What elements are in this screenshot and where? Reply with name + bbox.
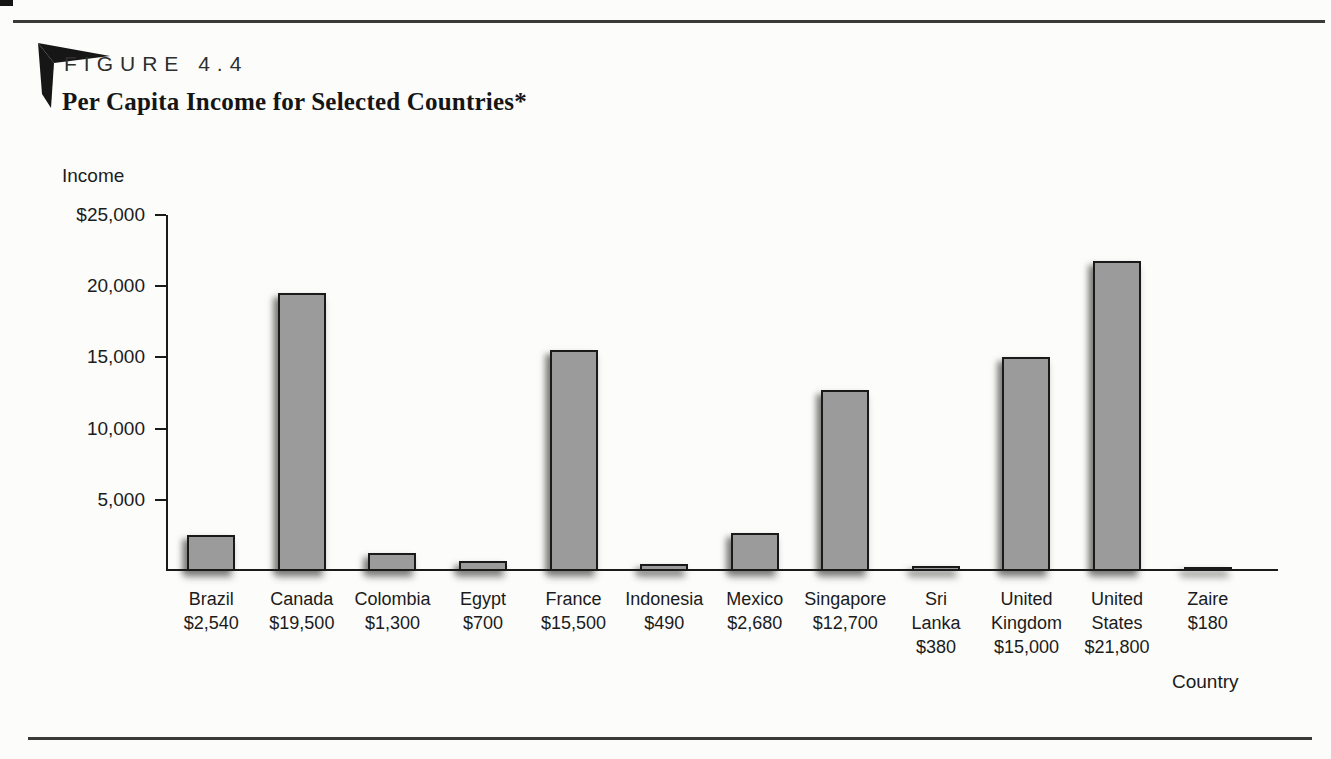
bar-canada: [278, 293, 326, 571]
bar-slot-mexico: [709, 215, 800, 571]
y-tick-mark: [155, 214, 166, 216]
country-value: $19,500: [257, 612, 348, 636]
bars-container: [166, 215, 1253, 571]
x-label-colombia: Colombia$1,300: [347, 588, 438, 659]
x-label-united-kingdom: United Kingdom$15,000: [981, 588, 1072, 659]
country-name: Indonesia: [619, 588, 710, 612]
figure-label: FIGURE 4.4: [64, 52, 248, 76]
x-label-canada: Canada$19,500: [257, 588, 348, 659]
y-tick-label: 5,000: [97, 489, 145, 511]
x-label-brazil: Brazil$2,540: [166, 588, 257, 659]
country-value: $2,540: [166, 612, 257, 636]
x-label-france: France$15,500: [528, 588, 619, 659]
bar-slot-indonesia: [619, 215, 710, 571]
country-value: $12,700: [800, 612, 891, 636]
country-name: Zaire: [1162, 588, 1253, 612]
x-axis-title: Country: [1172, 671, 1239, 693]
x-label-united-states: United States$21,800: [1072, 588, 1163, 659]
country-value: $21,800: [1072, 636, 1163, 660]
y-tick-mark: [155, 285, 166, 287]
bar-chart: $25,00020,00015,00010,0005,000 Brazil$2,…: [166, 215, 1278, 571]
country-name: Egypt: [438, 588, 529, 612]
country-value: $2,680: [709, 612, 800, 636]
country-name: Brazil: [166, 588, 257, 612]
y-tick-label: 20,000: [87, 275, 145, 297]
bottom-rule: [28, 737, 1312, 740]
bar-united-kingdom: [1002, 357, 1050, 571]
country-value: $490: [619, 612, 710, 636]
y-tick-label: 15,000: [87, 346, 145, 368]
country-name: United States: [1072, 588, 1163, 636]
bar-slot-colombia: [347, 215, 438, 571]
country-name: France: [528, 588, 619, 612]
figure-title: Per Capita Income for Selected Countries…: [62, 88, 527, 116]
x-label-egypt: Egypt$700: [438, 588, 529, 659]
bar-slot-united-kingdom: [981, 215, 1072, 571]
country-value: $700: [438, 612, 529, 636]
x-label-sri-lanka: Sri Lanka$380: [891, 588, 982, 659]
country-name: Sri Lanka: [891, 588, 982, 636]
country-name: Canada: [257, 588, 348, 612]
bar-mexico: [731, 533, 779, 571]
y-tick-label: $25,000: [76, 204, 145, 226]
country-name: United Kingdom: [981, 588, 1072, 636]
bar-slot-zaire: [1162, 215, 1253, 571]
bar-slot-brazil: [166, 215, 257, 571]
bar-slot-sri-lanka: [891, 215, 982, 571]
country-value: $380: [891, 636, 982, 660]
x-label-indonesia: Indonesia$490: [619, 588, 710, 659]
bar-slot-france: [528, 215, 619, 571]
bar-slot-canada: [257, 215, 348, 571]
x-label-mexico: Mexico$2,680: [709, 588, 800, 659]
bar-slot-egypt: [438, 215, 529, 571]
country-name: Mexico: [709, 588, 800, 612]
x-label-zaire: Zaire$180: [1162, 588, 1253, 659]
y-tick-mark: [155, 499, 166, 501]
country-value: $15,000: [981, 636, 1072, 660]
bar-france: [550, 350, 598, 571]
top-rule: [13, 20, 1325, 23]
x-axis-labels: Brazil$2,540Canada$19,500Colombia$1,300E…: [166, 588, 1253, 659]
y-tick-mark: [155, 428, 166, 430]
bar-brazil: [187, 535, 235, 571]
y-tick-mark: [155, 356, 166, 358]
country-value: $15,500: [528, 612, 619, 636]
country-value: $1,300: [347, 612, 438, 636]
country-value: $180: [1162, 612, 1253, 636]
bar-slot-united-states: [1072, 215, 1163, 571]
scan-corner-mark: [0, 0, 13, 6]
country-name: Colombia: [347, 588, 438, 612]
y-tick-label: 10,000: [87, 418, 145, 440]
bar-united-states: [1093, 261, 1141, 571]
x-label-singapore: Singapore$12,700: [800, 588, 891, 659]
x-axis-line: [166, 569, 1278, 571]
bar-singapore: [821, 390, 869, 571]
country-name: Singapore: [800, 588, 891, 612]
bar-slot-singapore: [800, 215, 891, 571]
y-axis-title: Income: [62, 165, 124, 187]
